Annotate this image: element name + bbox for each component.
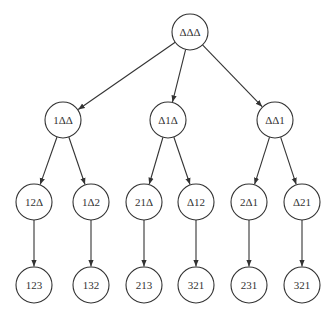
- node-label: Δ12: [187, 196, 205, 208]
- node-label: Δ21: [293, 196, 311, 208]
- tree-node-l1: 123: [16, 267, 52, 303]
- tree-node-n21: 21Δ: [126, 184, 162, 220]
- tree-node-l6: 321: [284, 267, 320, 303]
- tree-diagram: ΔΔΔ1ΔΔΔ1ΔΔΔ112Δ1Δ221ΔΔ122Δ1Δ211231322133…: [0, 0, 335, 320]
- edge-arrow: [255, 137, 270, 184]
- edge-arrow: [69, 137, 85, 184]
- edge-arrow: [172, 49, 185, 102]
- node-label: 21Δ: [135, 196, 153, 208]
- node-label: 231: [241, 279, 258, 291]
- node-label: 12Δ: [25, 196, 43, 208]
- node-label: 213: [136, 279, 153, 291]
- tree-node-l4: 321: [178, 267, 214, 303]
- tree-node-n31: 2Δ1: [231, 184, 267, 220]
- tree-node-root: ΔΔΔ: [172, 14, 208, 50]
- tree-node-l3: 213: [126, 267, 162, 303]
- tree-node-n1: 1ΔΔ: [45, 102, 81, 138]
- edge-arrow: [281, 137, 297, 184]
- tree-node-n22: Δ12: [178, 184, 214, 220]
- tree-node-n12: 1Δ2: [73, 184, 109, 220]
- node-label: ΔΔ1: [265, 114, 285, 126]
- tree-node-n2: Δ1Δ: [150, 102, 186, 138]
- node-label: 1ΔΔ: [53, 114, 73, 126]
- tree-node-n11: 12Δ: [16, 184, 52, 220]
- edge-arrow: [174, 137, 190, 184]
- node-label: ΔΔΔ: [179, 26, 200, 38]
- edge-arrow: [149, 137, 163, 184]
- tree-node-l2: 132: [73, 267, 109, 303]
- node-label: 321: [294, 279, 311, 291]
- tree-node-n32: Δ21: [284, 184, 320, 220]
- tree-node-l5: 231: [231, 267, 267, 303]
- node-label: 123: [26, 279, 43, 291]
- node-label: 1Δ2: [82, 196, 100, 208]
- edge-arrow: [78, 42, 175, 109]
- tree-node-n3: ΔΔ1: [257, 102, 293, 138]
- edges-layer: [34, 42, 302, 266]
- nodes-layer: ΔΔΔ1ΔΔΔ1ΔΔΔ112Δ1Δ221ΔΔ122Δ1Δ211231322133…: [16, 14, 320, 303]
- node-label: 2Δ1: [240, 196, 258, 208]
- node-label: 132: [83, 279, 100, 291]
- edge-arrow: [40, 137, 57, 185]
- node-label: 321: [188, 279, 205, 291]
- edge-arrow: [203, 45, 263, 107]
- node-label: Δ1Δ: [158, 114, 178, 126]
